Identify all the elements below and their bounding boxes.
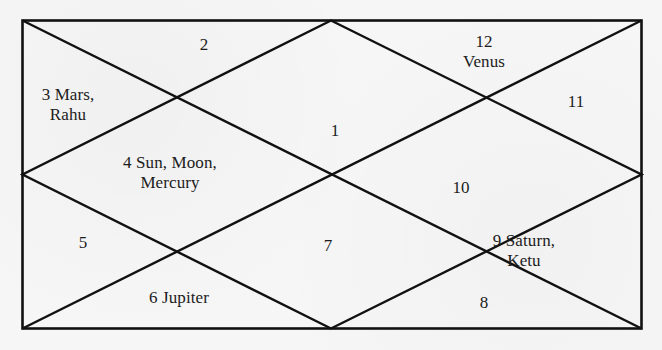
house-11-label: 11 xyxy=(568,92,585,112)
house-6-label: 6 Jupiter xyxy=(149,288,209,308)
house-6-line1: 6 Jupiter xyxy=(149,288,209,308)
house-7-label: 7 xyxy=(324,236,333,256)
house-12-label: 12 Venus xyxy=(463,32,505,72)
house-3-label: 3 Mars, Rahu xyxy=(42,85,95,125)
house-12-line1: 12 xyxy=(463,32,505,52)
house-5-label: 5 xyxy=(79,233,88,253)
house-3-line1: 3 Mars, xyxy=(42,85,95,105)
house-9-label: 9 Saturn, Ketu xyxy=(493,231,555,271)
house-4-line2: Mercury xyxy=(123,173,217,193)
house-3-line2: Rahu xyxy=(42,105,95,125)
house-1-label: 1 xyxy=(331,121,340,141)
house-4-line1: 4 Sun, Moon, xyxy=(123,153,217,173)
house-9-line1: 9 Saturn, xyxy=(493,231,555,251)
house-10-label: 10 xyxy=(452,178,469,198)
diagram-page: 1 2 3 Mars, Rahu 4 Sun, Moon, Mercury 5 … xyxy=(0,0,662,350)
house-8-label: 8 xyxy=(480,293,489,313)
house-2-label: 2 xyxy=(200,35,209,55)
house-12-line2: Venus xyxy=(463,52,505,72)
house-9-line2: Ketu xyxy=(493,251,555,271)
horoscope-chart-lines xyxy=(0,0,662,350)
house-4-label: 4 Sun, Moon, Mercury xyxy=(123,153,217,193)
